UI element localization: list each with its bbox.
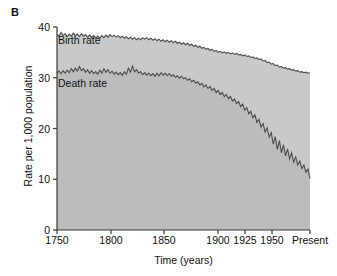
demographic-transition-chart: B Birth rateDeath rate Rate per 1,000 po… — [0, 0, 337, 276]
x-tick-label: 1850 — [152, 234, 175, 246]
x-tick-label: 1800 — [99, 234, 122, 246]
area-bands — [57, 33, 310, 230]
y-tick-label: 10 — [38, 173, 50, 185]
x-axis-title: Time (years) — [57, 254, 310, 266]
x-tick-label: Present — [292, 234, 328, 246]
y-tick-label: 30 — [38, 72, 50, 84]
series-label-birth-rate: Birth rate — [58, 34, 101, 46]
y-axis-title: Rate per 1,000 population — [22, 26, 34, 226]
x-tick-label: 1925 — [233, 234, 256, 246]
x-tick-label: 1900 — [206, 234, 229, 246]
y-tick-label: 0 — [44, 224, 50, 236]
y-tick-label: 20 — [38, 123, 50, 135]
x-tick-label: 1950 — [260, 234, 283, 246]
y-tick-label: 40 — [38, 21, 50, 33]
series-label-death-rate: Death rate — [58, 77, 107, 89]
